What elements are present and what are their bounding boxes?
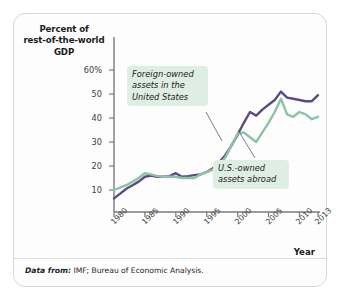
x-axis-title: Year [294,247,315,257]
source-note-rest: IMF; Bureau of Economic Analysis. [71,266,204,275]
source-note: Data from: IMF; Bureau of Economic Analy… [25,266,204,275]
leader-line-foreign [206,112,222,141]
y-axis-tick-label: 60% [72,65,102,75]
callout-foreign-line-2: assets in the [132,80,203,91]
callout-foreign-owned: Foreign-owned assets in the United State… [127,66,208,106]
y-axis-tick-label: 40 [72,113,102,123]
footer-divider [14,258,326,259]
callout-foreign-line-3: United States [132,92,203,103]
y-axis-tick-label: 50 [72,89,102,99]
callout-us-owned-line-2: assets abroad [218,174,284,185]
y-axis-ticks [109,70,114,190]
callout-us-owned-line-1: U.S.-owned [218,163,284,174]
callout-us-owned: U.S.-owned assets abroad [213,160,289,189]
figure-container: Percent of rest-of-the-world GDP 60%5040… [0,0,341,307]
y-axis-tick-label: 20 [72,161,102,171]
callout-foreign-line-1: Foreign-owned [132,69,203,80]
source-note-lead: Data from: [25,266,71,275]
y-axis-tick-label: 30 [72,137,102,147]
chart-plot-area [0,0,341,307]
y-axis-tick-label: 10 [72,185,102,195]
